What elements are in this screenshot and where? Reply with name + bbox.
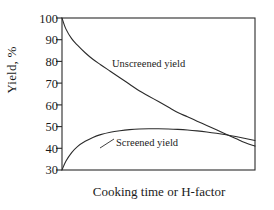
series-line-screened-yield	[62, 129, 255, 170]
y-axis-tick-label: 100	[32, 13, 58, 26]
series-line-unscreened-yield	[62, 18, 255, 146]
series-label-unscreened-yield: Unscreened yield	[112, 58, 185, 69]
y-axis-tick-label: 40	[32, 143, 58, 156]
y-axis-tick-label: 30	[32, 164, 58, 177]
x-axis-title: Cooking time or H-factor	[62, 184, 256, 200]
y-axis-tick-label: 50	[32, 121, 58, 134]
screened-yield-leader-line	[100, 139, 114, 148]
y-axis-tick-label: 80	[32, 56, 58, 69]
y-axis-tick-label: 60	[32, 100, 58, 113]
y-axis-title: Yield, %	[4, 30, 24, 110]
y-axis-tick-label: 90	[32, 34, 58, 47]
y-axis-tick-label: 70	[32, 78, 58, 91]
series-label-screened-yield: Screened yield	[116, 137, 178, 148]
chart-figure: Yield, % 100 90 80 70 60 50 40 30 Unscre…	[0, 0, 274, 210]
